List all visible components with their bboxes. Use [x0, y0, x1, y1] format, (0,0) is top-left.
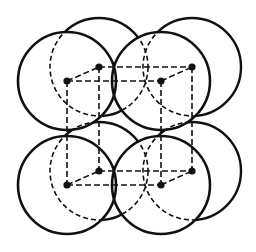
sphere-packing-diagram [0, 0, 256, 252]
center-dot-front-bottom-left [63, 181, 70, 188]
center-dot-back-top-right [188, 63, 195, 70]
center-dot-front-top-right [157, 77, 164, 84]
center-dot-front-top-left [63, 77, 70, 84]
back-spheres-visible [50, 18, 241, 220]
center-dot-back-bottom-right [188, 167, 195, 174]
front-spheres [18, 32, 210, 234]
cube-edge [67, 171, 99, 185]
center-dot-front-bottom-right [157, 181, 164, 188]
center-dot-back-bottom-left [95, 167, 102, 174]
cube-edge [161, 171, 192, 185]
center-dot-back-top-left [95, 63, 102, 70]
cube-edge [67, 67, 99, 81]
cube-edge [161, 67, 192, 81]
